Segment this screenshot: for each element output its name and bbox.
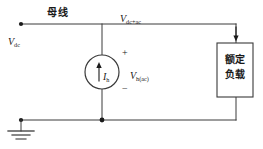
top-left-node-dot <box>19 22 23 26</box>
v-dc-subscript: dc <box>14 41 20 48</box>
current-source-symbol <box>85 55 119 89</box>
source-current-label: Ih <box>103 67 109 83</box>
rated-load-text-line2: 负载 <box>217 70 253 80</box>
source-voltage-label: Vh(ac) <box>130 66 149 82</box>
load-current-arrow-head <box>233 36 238 42</box>
v-dc-ac-subscript: dc+ac <box>126 18 141 25</box>
polarity-minus-sign: − <box>122 84 128 94</box>
v-dc-ac-label: Vdc+ac <box>120 9 141 25</box>
source-current-subscript: h <box>106 76 109 83</box>
v-dc-label: Vdc <box>8 32 20 48</box>
circuit-diagram: 母线 Vdc Vdc+ac Ih + − Vh(ac) 额定 负载 <box>0 0 263 149</box>
polarity-plus-sign: + <box>122 48 128 58</box>
bottom-center-node-dot <box>100 118 105 123</box>
source-voltage-subscript: h(ac) <box>136 75 149 82</box>
bus-label: 母线 <box>47 8 68 18</box>
rated-load-text-line1: 额定 <box>217 55 253 65</box>
